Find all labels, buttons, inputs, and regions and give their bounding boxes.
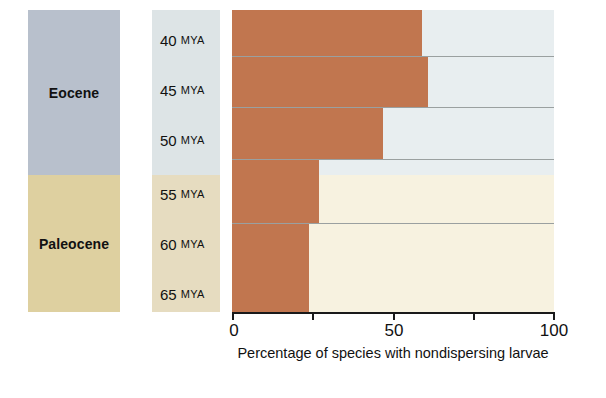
epoch-label-eocene: Eocene	[49, 85, 99, 101]
epoch-column: Eocene Paleocene	[28, 10, 120, 312]
age-tick-45: 45 MYA	[152, 72, 220, 108]
x-tick-label-0: 0	[229, 321, 238, 341]
x-axis-label: Percentage of species with nondispersing…	[232, 344, 554, 363]
bar-row-55-60mya	[232, 160, 554, 224]
x-tick-100	[553, 312, 555, 320]
age-unit-40: MYA	[181, 34, 205, 46]
bar-row-45mya	[232, 57, 554, 108]
epoch-band-eocene: Eocene	[28, 10, 120, 175]
bar-55mya	[232, 160, 319, 223]
age-tick-50: 50 MYA	[152, 122, 220, 158]
age-number-45: 45	[160, 82, 177, 99]
epoch-label-paleocene: Paleocene	[39, 236, 109, 252]
age-number-40: 40	[160, 32, 177, 49]
x-tick-25	[312, 312, 314, 320]
bar-65mya	[232, 224, 309, 312]
x-tick-0	[232, 312, 234, 320]
age-unit-60: MYA	[181, 238, 205, 250]
x-tick-label-50: 50	[385, 321, 404, 341]
age-unit-55: MYA	[181, 188, 205, 200]
bar-row-40mya	[232, 10, 554, 57]
x-tick-label-100: 100	[540, 321, 568, 341]
x-tick-50	[393, 312, 395, 320]
x-tick-75	[473, 312, 475, 320]
plot-area	[232, 10, 554, 312]
age-unit-50: MYA	[181, 134, 205, 146]
bar-row-65mya	[232, 224, 554, 312]
age-tick-65: 65 MYA	[152, 276, 220, 312]
age-tick-60: 60 MYA	[152, 226, 220, 262]
age-tick-55: 55 MYA	[152, 176, 220, 212]
age-number-60: 60	[160, 236, 177, 253]
bar-row-50mya	[232, 108, 554, 160]
bar-50mya	[232, 108, 383, 159]
age-number-55: 55	[160, 186, 177, 203]
age-number-65: 65	[160, 286, 177, 303]
age-scale-column: 40 MYA 45 MYA 50 MYA 55 MYA 60 MYA 65 MY…	[152, 10, 220, 312]
age-unit-65: MYA	[181, 288, 205, 300]
age-tick-40: 40 MYA	[152, 22, 220, 58]
bar-45mya	[232, 57, 428, 107]
age-number-50: 50	[160, 132, 177, 149]
figure-chart: Eocene Paleocene 40 MYA 45 MYA 50 MYA 55…	[0, 0, 606, 398]
age-unit-45: MYA	[181, 84, 205, 96]
epoch-band-paleocene: Paleocene	[28, 175, 120, 312]
bar-40mya	[232, 10, 422, 56]
